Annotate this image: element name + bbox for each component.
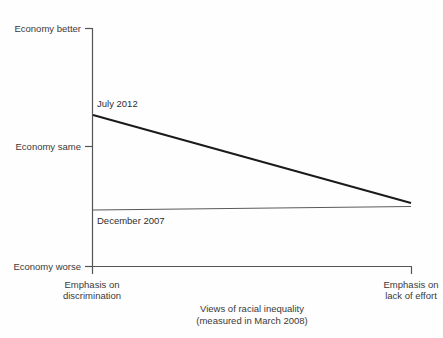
x-tick-label-right-line1: Emphasis on — [384, 279, 439, 290]
y-tick-label-bottom: Economy worse — [13, 261, 81, 272]
y-tick-label-middle: Economy same — [16, 141, 81, 152]
y-tick-label-top: Economy better — [14, 23, 81, 34]
x-tick-label-right-line2: lack of effort — [385, 290, 437, 301]
series-label-july-2012: July 2012 — [97, 98, 138, 109]
x-tick-label-left-line2: discrimination — [63, 290, 121, 301]
x-axis-title-line1: Views of racial inequality — [200, 303, 304, 314]
line-chart: Economy better Economy same Economy wors… — [0, 0, 443, 338]
series-label-december-2007: December 2007 — [97, 215, 165, 226]
chart-screenshot: Economy better Economy same Economy wors… — [0, 0, 443, 338]
x-tick-label-left-line1: Emphasis on — [65, 279, 120, 290]
x-axis-title-line2: (measured in March 2008) — [196, 315, 307, 326]
